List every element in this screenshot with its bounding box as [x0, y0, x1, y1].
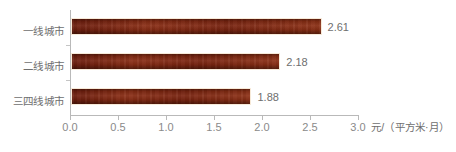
x-axis-tick: [70, 116, 71, 120]
bar-tier1: [71, 18, 322, 35]
y-axis-tick: [66, 80, 70, 81]
y-axis-tick: [66, 45, 70, 46]
x-axis-unit-label: 元/（平方米·月）: [371, 122, 449, 133]
x-axis-tick: [310, 116, 311, 120]
value-label-tier1: 2.61: [328, 22, 349, 33]
x-axis-label-1: 0.5: [98, 122, 138, 133]
value-label-tier34: 1.88: [257, 92, 278, 103]
x-axis-label-4: 2.0: [242, 122, 282, 133]
bar-tier34: [71, 88, 251, 105]
x-axis-label-2: 1.0: [146, 122, 186, 133]
category-label-tier34: 三四线城市: [0, 96, 64, 107]
category-label-tier1: 一线城市: [0, 26, 64, 37]
x-axis-label-5: 2.5: [290, 122, 330, 133]
bar-tier2: [71, 53, 280, 70]
bar-chart: 一线城市 二线城市 三四线城市 2.61 2.18 1.88 0.0 0.5 1…: [0, 0, 456, 152]
x-axis-tick: [118, 116, 119, 120]
x-axis-tick: [358, 116, 359, 120]
x-axis-tick: [214, 116, 215, 120]
x-axis-label-3: 1.5: [194, 122, 234, 133]
x-axis-tick: [262, 116, 263, 120]
category-label-tier2: 二线城市: [0, 61, 64, 72]
x-axis-label-0: 0.0: [50, 122, 90, 133]
value-label-tier2: 2.18: [286, 57, 307, 68]
x-axis-tick: [166, 116, 167, 120]
